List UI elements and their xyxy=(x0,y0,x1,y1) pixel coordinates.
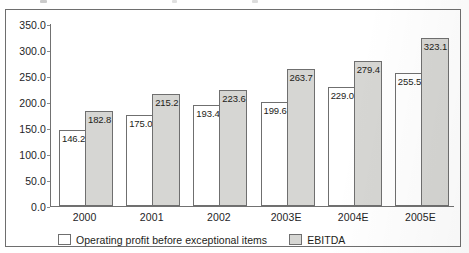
bar-value-label: 323.1 xyxy=(424,41,447,52)
bar-ebitda[interactable]: 215.2 xyxy=(152,94,180,206)
bar-operating-profit[interactable]: 146.2 xyxy=(59,130,87,206)
bar-operating-profit[interactable]: 229.0 xyxy=(328,87,356,206)
figure-frame: 350.0300.0250.0200.0150.0100.050.00.0 14… xyxy=(5,9,461,247)
y-axis-tick-label: 200.0 xyxy=(19,97,46,109)
x-axis-tick-label: 2005E xyxy=(405,211,436,223)
bar-ebitda[interactable]: 279.4 xyxy=(354,61,382,206)
legend-item-ebitda: EBITDA xyxy=(289,234,345,246)
bar-value-label: 279.4 xyxy=(357,64,380,75)
y-axis-tick-mark xyxy=(47,207,50,208)
bar-value-label: 193.4 xyxy=(196,108,219,119)
bar-operating-profit[interactable]: 199.6 xyxy=(261,102,289,206)
bar-value-label: 199.6 xyxy=(264,105,287,116)
plot-area: 350.0300.0250.0200.0150.0100.050.00.0 14… xyxy=(50,24,454,207)
y-axis-tick-label: 50.0 xyxy=(25,175,46,187)
x-axis-tick-labels: 2000200120022003E2004E2005E xyxy=(51,211,454,227)
bar-value-label: 215.2 xyxy=(155,97,178,108)
y-axis-tick-mark xyxy=(47,129,50,130)
y-axis-tick-mark xyxy=(47,155,50,156)
bar-value-label: 229.0 xyxy=(331,90,354,101)
bar-operating-profit[interactable]: 175.0 xyxy=(126,115,154,206)
x-axis-tick-label: 2002 xyxy=(207,211,231,223)
white-square-icon xyxy=(58,234,71,245)
bar-group: 199.6263.7 xyxy=(253,24,320,206)
x-axis-tick-label: 2003E xyxy=(271,211,302,223)
bar-ebitda[interactable]: 223.6 xyxy=(219,90,247,206)
y-axis-tick-mark xyxy=(47,103,50,104)
scan-edge-artifact xyxy=(0,0,469,6)
bar-value-label: 182.8 xyxy=(88,114,111,125)
bar-ebitda[interactable]: 182.8 xyxy=(85,111,113,206)
y-axis-tick-label: 250.0 xyxy=(19,71,46,83)
y-axis-tick-mark xyxy=(47,25,50,26)
bar-ebitda[interactable]: 263.7 xyxy=(287,69,315,206)
bar-value-label: 146.2 xyxy=(62,133,85,144)
x-axis-tick-label: 2000 xyxy=(73,211,97,223)
x-axis-tick-label: 2004E xyxy=(338,211,369,223)
chart-legend: Operating profit before exceptional item… xyxy=(58,231,345,248)
gray-square-icon xyxy=(289,234,302,245)
bar-group: 255.5323.1 xyxy=(387,24,454,206)
y-axis-tick-label: 100.0 xyxy=(19,149,46,161)
bar-ebitda[interactable]: 323.1 xyxy=(421,38,449,206)
y-axis-tick-label: 150.0 xyxy=(19,123,46,135)
bar-group: 229.0279.4 xyxy=(320,24,387,206)
y-axis-tick-mark xyxy=(47,51,50,52)
y-axis-tick-label: 300.0 xyxy=(19,45,46,57)
y-axis-tick-label: 0.0 xyxy=(31,201,46,213)
bar-operating-profit[interactable]: 193.4 xyxy=(193,105,221,206)
y-axis-tick-label: 350.0 xyxy=(19,19,46,31)
bar-value-label: 175.0 xyxy=(129,118,152,129)
bar-value-label: 223.6 xyxy=(222,93,245,104)
bar-value-label: 263.7 xyxy=(290,72,313,83)
bars-layer: 146.2182.8175.0215.2193.4223.6199.6263.7… xyxy=(51,24,454,206)
bar-group: 175.0215.2 xyxy=(118,24,185,206)
bar-value-label: 255.5 xyxy=(398,76,421,87)
y-axis-tick-mark xyxy=(47,181,50,182)
bar-operating-profit[interactable]: 255.5 xyxy=(395,73,423,206)
legend-item-label: Operating profit before exceptional item… xyxy=(76,234,267,246)
legend-item-label: EBITDA xyxy=(307,234,345,246)
y-axis-tick-mark xyxy=(47,77,50,78)
x-axis-tick-label: 2001 xyxy=(140,211,164,223)
x-axis-line xyxy=(50,206,454,207)
legend-item-operating-profit: Operating profit before exceptional item… xyxy=(58,234,267,246)
bar-group: 146.2182.8 xyxy=(51,24,118,206)
bar-group: 193.4223.6 xyxy=(185,24,252,206)
